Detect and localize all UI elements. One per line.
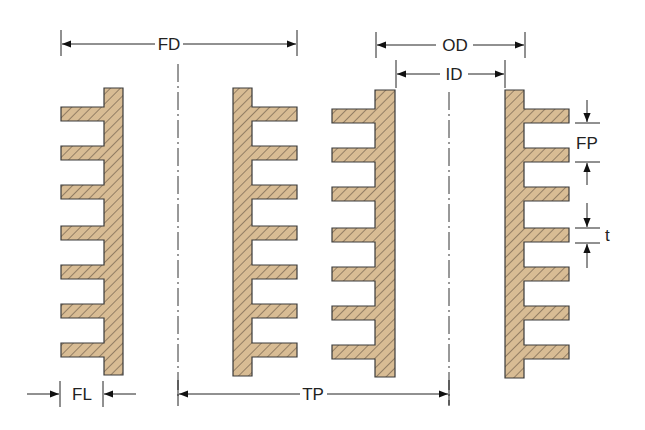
fl-label: FL	[72, 385, 92, 404]
t-label: t	[605, 226, 610, 245]
tube-1-right-wall	[233, 88, 297, 376]
fd-label: FD	[158, 35, 181, 54]
tp-label: TP	[302, 385, 324, 404]
tube-2-left-wall	[332, 90, 395, 377]
finned-tube-diagram: FD OD ID FP t FL	[0, 0, 645, 430]
fp-label: FP	[576, 134, 598, 153]
od-label: OD	[442, 36, 468, 55]
t-dimension	[575, 203, 600, 268]
id-label: ID	[446, 65, 463, 84]
tube-2-right-wall	[505, 90, 569, 378]
tube-1-left-wall	[61, 88, 123, 375]
